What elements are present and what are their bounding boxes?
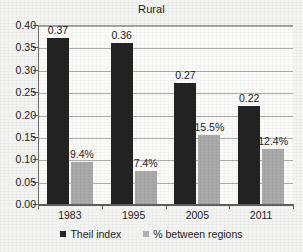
bar-2005-pct-between-regions: [198, 135, 220, 204]
bar-1983-pct-between-regions: [71, 162, 93, 204]
y-axis-tick-label: 0.25: [4, 86, 36, 98]
x-axis-tick-label: 1995: [122, 209, 145, 221]
bar-value-label: 15.5%: [194, 121, 224, 133]
legend-item-pct-between-regions[interactable]: % between regions: [143, 228, 242, 240]
bar-2011-pct-between-regions: [262, 149, 284, 204]
bar-value-label: 0.27: [175, 69, 195, 81]
y-axis-tick-label: 0.20: [4, 109, 36, 121]
gridline: [39, 26, 293, 27]
x-axis-tick-mark: [38, 204, 39, 209]
legend-item-theil-index[interactable]: Theil index: [60, 228, 121, 240]
legend-swatch-icon: [60, 231, 66, 237]
bar-value-label: 0.36: [111, 29, 131, 41]
x-axis-tick-label: 2011: [250, 209, 273, 221]
x-axis-tick-label: 1983: [58, 209, 81, 221]
bar-value-label: 9.4%: [70, 148, 94, 160]
bar-1983-theil-index: [47, 38, 69, 204]
x-axis-tick-mark: [229, 204, 230, 209]
legend-item-label: % between regions: [153, 228, 242, 240]
y-axis-tick-label: 0.35: [4, 41, 36, 53]
y-axis-tick-label: 0.30: [4, 64, 36, 76]
bar-value-label: 12.4%: [258, 135, 288, 147]
bar-value-label: 0.22: [239, 92, 259, 104]
gridline: [39, 48, 293, 49]
bar-2011-theil-index: [238, 106, 260, 204]
legend-swatch-icon: [143, 231, 149, 237]
y-axis-tick-label: 0.15: [4, 131, 36, 143]
y-axis-tick-label: 0.40: [4, 19, 36, 31]
bar-1995-pct-between-regions: [135, 171, 157, 204]
x-axis-tick-label: 2005: [186, 209, 209, 221]
y-axis-tick-label: 0.10: [4, 153, 36, 165]
chart-legend: Theil index% between regions: [0, 228, 303, 240]
legend-item-label: Theil index: [70, 228, 121, 240]
chart-title: Rural: [0, 3, 303, 15]
bar-value-label: 7.4%: [134, 157, 158, 169]
bar-chart: Rural 0.000.050.100.150.200.250.300.350.…: [0, 0, 303, 252]
bar-2005-theil-index: [174, 83, 196, 204]
x-axis-tick-mark: [102, 204, 103, 209]
gridline: [39, 71, 293, 72]
y-axis-tick-label: 0.00: [4, 198, 36, 210]
bar-1995-theil-index: [111, 43, 133, 204]
bar-value-label: 0.37: [48, 24, 68, 36]
x-axis-tick-mark: [293, 204, 294, 209]
y-axis-tick-label: 0.05: [4, 176, 36, 188]
x-axis-tick-mark: [166, 204, 167, 209]
